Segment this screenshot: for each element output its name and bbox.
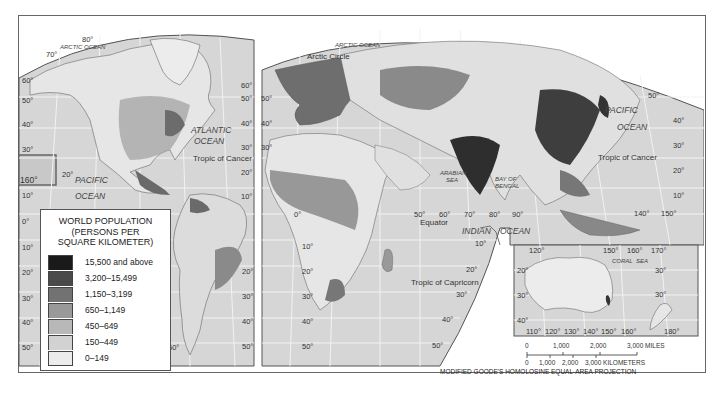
- lat-label: 10°: [475, 239, 486, 248]
- lat-label: 20°: [22, 268, 33, 277]
- label-tropic-cancer-east: Tropic of Cancer: [598, 153, 657, 162]
- legend-items: 15,500 and above 3,200–15,499 1,150–3,19…: [48, 254, 153, 366]
- lat-label: 10°: [241, 192, 252, 201]
- lon-label: 150°: [603, 246, 619, 255]
- lat-label: 10°: [22, 243, 33, 252]
- label-tropic-capricorn: Tropic of Capricorn: [411, 278, 479, 287]
- lat-label: 40°: [517, 316, 528, 325]
- label-bengal-1: BAY OF: [495, 176, 516, 182]
- lon-label: 50°: [414, 210, 425, 219]
- lon-label: 80°: [489, 210, 500, 219]
- legend-swatch: [48, 351, 73, 366]
- lat-label: 30°: [302, 292, 313, 301]
- lon-label: 70°: [464, 210, 475, 219]
- lon-label: 140°: [634, 209, 650, 218]
- lon-label: 120°: [545, 327, 561, 336]
- lat-label: 40°: [261, 119, 272, 128]
- label-arctic-ocean-east: ARCTIC OCEAN: [335, 42, 380, 48]
- lat-label: 20°: [673, 166, 684, 175]
- lat-label: 10°: [22, 191, 33, 200]
- legend-swatch: [48, 255, 73, 270]
- label-pacific-west-1: PACIFIC: [75, 175, 108, 185]
- lon-label: 150°: [601, 327, 617, 336]
- lon-label: 140°: [583, 327, 599, 336]
- lat-label: 20°: [517, 266, 528, 275]
- legend-item: 0–149: [48, 350, 153, 366]
- lat-label: 20°: [302, 267, 313, 276]
- label-equator: Equator: [420, 218, 448, 227]
- lat-label: 40°: [673, 116, 684, 125]
- lat-label: 70°: [46, 50, 57, 59]
- legend-item: 150–449: [48, 334, 153, 350]
- label-pacific-east-1: PACIFIC: [605, 105, 638, 115]
- legend-item: 15,500 and above: [48, 254, 153, 270]
- lat-label: 50°: [22, 343, 33, 352]
- lat-label: 20°: [466, 265, 477, 274]
- label-indian-1: INDIAN: [462, 226, 491, 236]
- lat-label: 30°: [456, 290, 467, 299]
- label-bengal-2: BENGAL: [495, 183, 519, 189]
- lat-label: 20°: [242, 267, 253, 276]
- scale-miles-0: 0: [525, 342, 529, 349]
- lat-label: 50°: [648, 91, 659, 100]
- label-tropic-cancer-west: Tropic of Cancer: [193, 154, 252, 163]
- lat-label: 40°: [302, 317, 313, 326]
- lat-label: 20°: [241, 168, 252, 177]
- legend-item: 3,200–15,499: [48, 270, 153, 286]
- lat-label: 80°: [82, 35, 93, 44]
- lon-label: 130°: [564, 327, 580, 336]
- scale-km-3000: 3,000 KILOMETERS: [585, 359, 645, 366]
- scale-bar: [527, 352, 637, 358]
- lon-label: 110°: [526, 327, 541, 336]
- lat-label: 30°: [22, 145, 33, 154]
- lat-label: 40°: [241, 119, 252, 128]
- legend-item: 1,150–3,199: [48, 286, 153, 302]
- legend-item: 650–1,149: [48, 302, 153, 318]
- lat-label: 40°: [442, 315, 453, 324]
- lat-label: 30°: [22, 294, 33, 303]
- lon-label: 170°: [651, 246, 667, 255]
- lat-label: 50°: [241, 94, 252, 103]
- lat-label: 30°: [242, 292, 253, 301]
- label-arctic-circle: Arctic Circle: [307, 52, 350, 61]
- label-pacific-east-2: OCEAN: [617, 122, 647, 132]
- lon-label: 150°: [661, 209, 677, 218]
- label-arctic-ocean-west: ARCTIC OCEAN: [60, 44, 105, 50]
- scale-km-0: 0: [525, 359, 529, 366]
- lat-label: 60°: [241, 81, 252, 90]
- lat-label: 30°: [241, 143, 252, 152]
- lon-label: 120°: [529, 246, 545, 255]
- lat-label: 30°: [655, 266, 666, 275]
- label-arabian-1: ARABIAN: [440, 170, 466, 176]
- legend-item: 450–649: [48, 318, 153, 334]
- lon-label: 160°: [621, 327, 637, 336]
- scale-km-2000: 2,000: [562, 359, 578, 366]
- population-legend: WORLD POPULATION (PERSONS PER SQUARE KIL…: [40, 209, 171, 371]
- legend-title: WORLD POPULATION (PERSONS PER SQUARE KIL…: [41, 216, 170, 248]
- label-coral-2: SEA: [636, 258, 648, 264]
- scale-miles-3000: 3,000 MILES: [627, 342, 665, 349]
- legend-swatch: [48, 287, 73, 302]
- lat-label: 30°: [673, 141, 684, 150]
- lat-label: 50°: [261, 94, 272, 103]
- label-atlantic-1: ATLANTIC: [191, 125, 231, 135]
- legend-swatch: [48, 271, 73, 286]
- projection-note: MODIFIED GOODE'S HOMOLOSINE EQUAL-AREA P…: [440, 368, 636, 375]
- lon-label: 90°: [512, 210, 523, 219]
- label-atlantic-2: OCEAN: [194, 136, 224, 146]
- legend-swatch: [48, 303, 73, 318]
- lon-label-hawaii: 160°: [20, 175, 38, 185]
- lon-label: 160°: [627, 246, 643, 255]
- lat-label: 50°: [432, 341, 443, 350]
- scale-miles-2000: 2,000: [590, 342, 606, 349]
- legend-swatch: [48, 319, 73, 334]
- lat-label: 50°: [302, 342, 313, 351]
- lat-label: 10°: [302, 242, 313, 251]
- legend-swatch: [48, 335, 73, 350]
- scale-km-1000: 1,000: [539, 359, 555, 366]
- lat-label: 0°: [22, 217, 29, 226]
- label-pacific-west-2: OCEAN: [75, 191, 105, 201]
- lon-label-zero: 0°: [294, 210, 301, 219]
- lat-label: 50°: [242, 342, 253, 351]
- scale-miles-1000: 1,000: [553, 342, 569, 349]
